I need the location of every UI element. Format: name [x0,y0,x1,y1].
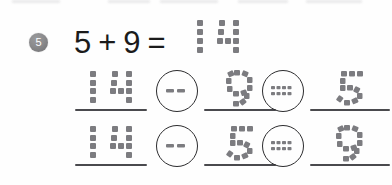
artifact-mark [108,0,150,3]
fam2-difference-glyph-wrap [310,120,390,162]
fam1-cell-difference[interactable] [310,63,390,111]
fam2-minus-circle[interactable] [156,125,198,167]
fam1-minus-circle[interactable] [156,70,198,112]
fam2-minuend-rule [75,164,147,166]
traced-number-14 [188,18,248,58]
fam1-minuend-glyph-wrap [75,65,147,107]
traced-number-5 [330,69,370,107]
right-operand: 9 [123,25,142,60]
problem-number-badge: 5 [29,33,48,52]
answer-glyph-wrap [188,18,263,58]
equals-sign: = [143,25,173,60]
artifact-mark [160,0,218,3]
artifact-mark [12,0,60,3]
fact-family-row-2 [0,118,392,173]
fam2-cell-minuend[interactable] [75,118,147,166]
traced-number-9 [220,69,260,107]
fam2-minuend-glyph-wrap [75,120,147,162]
fam1-minuend-rule [75,109,147,111]
fam2-cell-difference[interactable] [310,118,390,166]
cropped-row-artifacts [0,0,392,10]
traced-minus-sign [164,141,190,151]
fam1-difference-glyph-wrap [310,65,390,107]
artifact-mark [238,0,288,3]
left-operand: 5 [74,25,93,60]
fam2-equals-circle[interactable] [262,125,304,167]
fam1-cell-minuend[interactable] [75,63,147,111]
traced-minus-sign [164,86,190,96]
fam1-difference-rule [310,109,390,111]
plus-sign: + [93,25,123,60]
answer-blank[interactable] [188,18,263,66]
traced-number-9 [330,124,370,162]
equation-text: 5+9= [74,25,173,61]
traced-equals-sign [269,83,297,99]
traced-number-5 [220,124,260,162]
fact-family-row-1 [0,63,392,118]
fam1-subtrahend-rule [204,109,276,111]
artifact-mark [306,0,362,3]
traced-equals-sign [269,138,297,154]
fam1-equals-circle[interactable] [262,70,304,112]
problem-line: 5 5+9= [0,22,392,62]
worksheet-page: 5 5+9= [0,0,392,185]
traced-number-14 [82,69,140,107]
fam2-subtrahend-rule [204,164,276,166]
fam2-difference-rule [310,164,390,166]
traced-number-14 [82,124,140,162]
